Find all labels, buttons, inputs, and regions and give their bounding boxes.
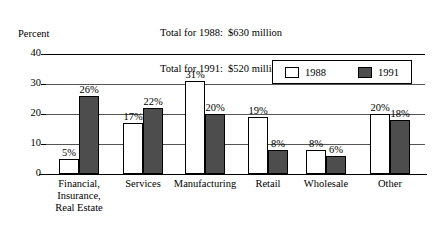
bar-value-label: 31% — [185, 69, 204, 80]
bar-1988-3 — [248, 117, 268, 174]
category-label-line: Wholesale — [304, 178, 348, 190]
bar-value-label: 5% — [62, 147, 76, 158]
y-tick-label-0: 0 — [19, 167, 41, 178]
gridline-30 — [45, 84, 425, 85]
category-label-line: Services — [125, 178, 161, 190]
y-tick-mark-40 — [41, 54, 46, 55]
bar-value-label: 8% — [309, 138, 323, 149]
bar-value-label: 17% — [123, 111, 142, 122]
y-tick-label-20: 20 — [19, 107, 41, 118]
bar-1991-0 — [79, 96, 99, 174]
category-label: Manufacturing — [174, 178, 236, 190]
bar-value-label: 18% — [390, 108, 409, 119]
gridline-20 — [45, 114, 425, 115]
bar-value-label: 26% — [79, 84, 98, 95]
bar-value-label: 19% — [248, 105, 267, 116]
legend-label-1991: 1991 — [378, 67, 399, 78]
category-label: Financial,Insurance,Real Estate — [55, 178, 103, 214]
y-tick-label-10: 10 — [19, 137, 41, 148]
y-tick-label-40: 40 — [19, 47, 41, 58]
chart-legend: 1988 1991 — [272, 60, 412, 84]
bar-1988-0 — [59, 159, 79, 174]
category-label-line: Financial, — [55, 178, 103, 190]
category-label: Services — [125, 178, 161, 190]
y-tick-mark-10 — [41, 144, 46, 145]
bar-value-label: 20% — [205, 102, 224, 113]
bar-value-label: 8% — [271, 138, 285, 149]
bar-1988-5 — [370, 114, 390, 174]
bar-1991-5 — [390, 120, 410, 174]
legend-label-1988: 1988 — [305, 67, 326, 78]
y-tick-mark-0 — [41, 174, 46, 175]
category-label: Retail — [255, 178, 280, 190]
bar-1991-2 — [205, 114, 225, 174]
legend-item-1988: 1988 — [285, 67, 326, 78]
category-label: Other — [378, 178, 402, 190]
bar-1991-1 — [143, 108, 163, 174]
y-tick-mark-20 — [41, 114, 46, 115]
category-label-line: Other — [378, 178, 402, 190]
x-axis-line — [39, 174, 427, 175]
category-label-line: Real Estate — [55, 202, 103, 214]
category-label-line: Retail — [255, 178, 280, 190]
category-label-line: Manufacturing — [174, 178, 236, 190]
bar-chart: Total for 1988: $630 million Total for 1… — [0, 0, 447, 226]
y-tick-label-30: 30 — [19, 77, 41, 88]
y-axis-ticks: 403020100 — [17, 54, 41, 174]
bar-1991-3 — [268, 150, 288, 174]
category-label: Wholesale — [304, 178, 348, 190]
bar-value-label: 6% — [329, 144, 343, 155]
bar-1991-4 — [326, 156, 346, 174]
bar-value-label: 22% — [143, 96, 162, 107]
y-tick-mark-30 — [41, 84, 46, 85]
bar-1988-1 — [123, 123, 143, 174]
bar-value-label: 20% — [370, 102, 389, 113]
category-label-line: Insurance, — [55, 190, 103, 202]
legend-swatch-1988 — [285, 67, 299, 78]
legend-swatch-1991 — [358, 67, 372, 78]
gridline-10 — [45, 144, 425, 145]
y-axis-title: Percent — [18, 28, 50, 39]
gridline-40 — [45, 54, 425, 55]
bar-1988-2 — [185, 81, 205, 174]
legend-item-1991: 1991 — [358, 67, 399, 78]
bar-1988-4 — [306, 150, 326, 174]
total-1988-text: Total for 1988: $630 million — [160, 27, 282, 39]
